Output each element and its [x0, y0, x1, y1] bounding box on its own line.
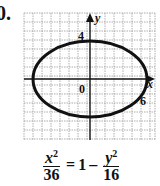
equals-sign: =	[66, 156, 75, 174]
lhs-fraction: x2 36	[43, 146, 60, 183]
equation: x2 36 = 1 – y2 16	[40, 146, 122, 183]
lhs-exponent: 2	[53, 148, 58, 159]
ellipse-graph: y x 4 0 6	[0, 0, 160, 140]
rhs-denominator: 16	[103, 167, 119, 183]
rhs-fraction: y2 16	[103, 146, 119, 183]
lhs-denominator: 36	[44, 167, 60, 183]
y-axis-label: y	[93, 11, 101, 25]
constant-one: 1	[78, 156, 86, 174]
y-intercept-label: 4	[78, 29, 84, 43]
rhs-exponent: 2	[112, 148, 117, 159]
x-intercept-label: 6	[140, 94, 146, 108]
minus-sign: –	[89, 156, 97, 174]
origin-label: 0	[79, 82, 85, 96]
x-axis-label: x	[146, 77, 153, 91]
rhs-numerator: y2	[103, 146, 119, 167]
lhs-var: x	[45, 149, 53, 166]
lhs-numerator: x2	[43, 146, 60, 167]
